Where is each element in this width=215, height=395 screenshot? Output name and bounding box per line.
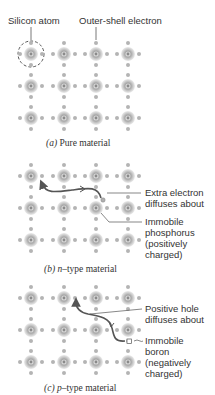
panel-c-p-type-material: Positive hole diffuses about Immobile bo… xyxy=(18,285,204,394)
boron-label-3: (negatively xyxy=(145,357,191,368)
caption-c: (c) p–type material xyxy=(44,383,117,394)
phosphorus-label-3: (positively xyxy=(145,238,187,249)
atom-lattice-b xyxy=(18,163,141,253)
hole-label-2: diffuses about xyxy=(145,314,204,325)
semiconductor-diagram: Silicon atom Outer-shell electron (a) Pu… xyxy=(0,0,215,395)
extra-electron xyxy=(101,198,105,202)
hole-square-icon xyxy=(127,339,132,344)
boron-leader xyxy=(134,340,143,342)
phosphorus-label-2: phosphorus xyxy=(145,227,195,238)
boron-label-4: charged) xyxy=(145,368,183,379)
phosphorus-label-4: charged) xyxy=(145,249,183,260)
phosphorus-leader xyxy=(101,213,142,222)
extra-electron-label-1: Extra electron xyxy=(145,187,204,198)
silicon-atom-label: Silicon atom xyxy=(8,15,60,26)
electron-diffusion-arrow xyxy=(42,184,101,198)
hole-label-1: Positive hole xyxy=(145,303,199,314)
panel-a-pure-material: Silicon atom Outer-shell electron (a) Pu… xyxy=(8,15,162,149)
caption-a: (a) Pure material xyxy=(46,138,111,149)
atom-lattice-c xyxy=(18,285,141,375)
caption-b: (b) n–type material xyxy=(44,264,117,275)
outer-shell-electron-label: Outer-shell electron xyxy=(79,15,162,26)
boron-label-1: Immobile xyxy=(145,335,184,346)
panel-b-n-type-material: Extra electron diffuses about Immobile p… xyxy=(18,163,204,275)
atom-lattice-a xyxy=(18,41,141,131)
phosphorus-label-1: Immobile xyxy=(145,216,184,227)
extra-electron-label-2: diffuses about xyxy=(145,198,204,209)
boron-label-2: boron xyxy=(145,346,169,357)
